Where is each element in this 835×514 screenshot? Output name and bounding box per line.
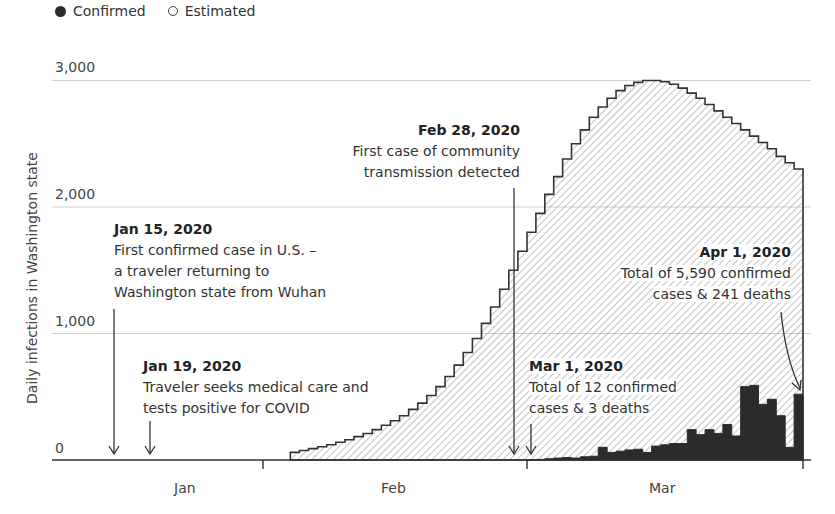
x-tick-jan: Jan (174, 480, 196, 496)
annotation-line: cases & 241 deaths (621, 284, 791, 305)
annotation-date: Feb 28, 2020 (353, 120, 520, 141)
annotation-apr-1: Apr 1, 2020 Total of 5,590 confirmed cas… (621, 242, 791, 305)
annotation-feb-28: Feb 28, 2020 First case of community tra… (353, 120, 520, 183)
annotation-line: cases & 3 deaths (529, 398, 677, 419)
annotation-jan-19: Jan 19, 2020 Traveler seeks medical care… (143, 356, 369, 419)
annotation-date: Jan 19, 2020 (143, 356, 369, 377)
annotation-jan-15: Jan 15, 2020 First confirmed case in U.S… (114, 219, 326, 303)
x-tick-mar: Mar (649, 480, 675, 496)
annotation-mar-1: Mar 1, 2020 Total of 12 confirmed cases … (529, 356, 677, 419)
annotation-line: transmission detected (353, 162, 520, 183)
annotation-line: tests positive for COVID (143, 398, 369, 419)
annotation-line: First case of community (353, 141, 520, 162)
annotation-line: Traveler seeks medical care and (143, 377, 369, 398)
annotation-line: Total of 5,590 confirmed (621, 263, 791, 284)
x-tick-feb: Feb (381, 480, 406, 496)
annotation-line: First confirmed case in U.S. – (114, 240, 326, 261)
annotation-line: Total of 12 confirmed (529, 377, 677, 398)
annotation-date: Mar 1, 2020 (529, 356, 677, 377)
x-axis (52, 460, 811, 469)
annotation-date: Jan 15, 2020 (114, 219, 326, 240)
annotation-date: Apr 1, 2020 (621, 242, 791, 263)
annotation-line: Washington state from Wuhan (114, 282, 326, 303)
annotation-line: a traveler returning to (114, 261, 326, 282)
